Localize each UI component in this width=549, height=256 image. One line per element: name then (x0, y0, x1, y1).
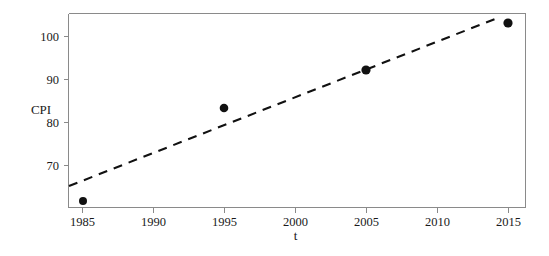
data-point-1995 (220, 104, 229, 113)
trend-line (69, 17, 500, 186)
x-tick-label-2000: 2000 (283, 215, 308, 229)
x-tick-labels: 1985 1990 1995 2000 2005 2010 2015 (70, 215, 521, 229)
chart-figure: 100 90 80 70 1985 1990 1995 2000 2005 20… (0, 0, 549, 256)
data-point-1985 (79, 197, 87, 205)
plot-frame (69, 14, 526, 208)
y-tick-marks (64, 37, 69, 166)
x-tick-label-1985: 1985 (70, 215, 95, 229)
y-tick-label-90: 90 (47, 73, 60, 87)
y-axis-title: CPI (31, 102, 51, 117)
x-tick-label-2005: 2005 (354, 215, 379, 229)
x-tick-label-1990: 1990 (141, 215, 166, 229)
data-point-2015 (503, 18, 512, 27)
x-tick-label-2015: 2015 (496, 215, 521, 229)
x-tick-label-1995: 1995 (212, 215, 237, 229)
x-tick-label-2010: 2010 (425, 215, 450, 229)
data-points (79, 18, 513, 205)
scatter-plot: 100 90 80 70 1985 1990 1995 2000 2005 20… (0, 0, 549, 256)
y-tick-label-80: 80 (47, 116, 60, 130)
x-axis-title: t (294, 228, 298, 243)
x-tick-marks (83, 208, 509, 213)
data-point-2005 (361, 65, 370, 74)
frame-rect (69, 14, 526, 208)
y-tick-label-100: 100 (40, 30, 59, 44)
y-tick-label-70: 70 (47, 159, 60, 173)
